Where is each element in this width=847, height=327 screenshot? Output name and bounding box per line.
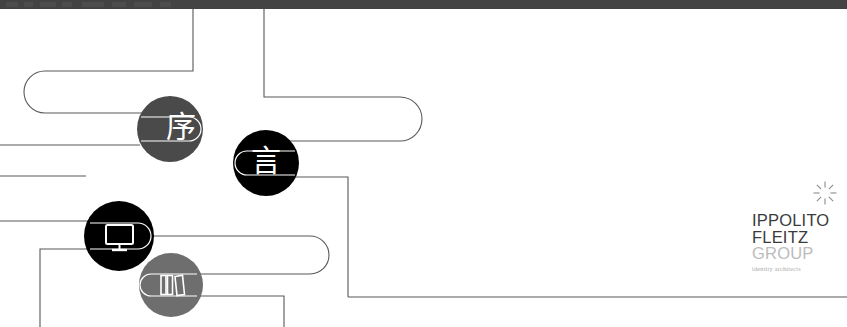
toolbar-speck	[134, 2, 152, 7]
toolbar-speck	[40, 2, 56, 7]
node-preface[interactable]: 序	[137, 96, 203, 162]
node-speech[interactable]: 言	[233, 130, 299, 196]
node-preface-glyph: 序	[166, 112, 196, 142]
logo-line-group: GROUP	[752, 245, 844, 262]
logo-line-ippolito: IPPOLITO	[752, 212, 844, 229]
toolbar-speck	[6, 2, 18, 7]
connector-second-top-feed	[264, 9, 400, 97]
logo-line-fleitz: FLEITZ	[752, 229, 844, 246]
books-icon	[139, 253, 203, 317]
cut-off-toolbar[interactable]	[0, 0, 847, 9]
node-speech-glyph: 言	[251, 146, 281, 176]
slide-canvas: 序 言	[0, 0, 847, 327]
toolbar-speck	[160, 2, 171, 7]
node-library[interactable]	[139, 253, 203, 317]
connector-top-left-feed	[45, 9, 193, 71]
toolbar-speck	[24, 2, 33, 7]
toolbar-speck	[82, 2, 104, 7]
toolbar-speck	[62, 2, 72, 7]
connector-diagram	[0, 0, 847, 327]
sparkle-icon-svg	[812, 180, 838, 206]
brand-logo: IPPOLITO FLEITZ GROUP identity architect…	[752, 212, 844, 272]
toolbar-speck	[112, 2, 126, 7]
logo-tagline: identity architects	[752, 265, 844, 272]
sparkle-icon	[812, 180, 838, 206]
